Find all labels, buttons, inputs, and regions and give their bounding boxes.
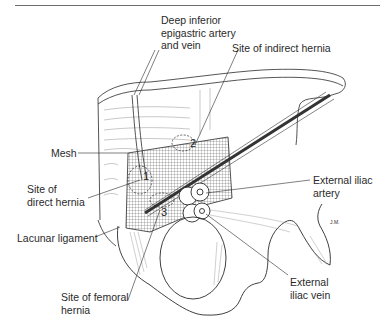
label-femoral-hernia: Site of femoral hernia [61,291,129,316]
label-external-iliac-artery: External iliac artery [313,174,373,199]
mesh-patch [126,137,232,232]
marker-3: 3 [161,206,167,219]
label-indirect-hernia: Site of indirect hernia [232,42,331,55]
label-external-iliac-vein: External iliac vein [290,276,330,301]
marker-2: 2 [190,137,196,150]
label-direct-hernia: Site of direct hernia [27,183,85,208]
artist-signature: J.M. [330,216,339,229]
label-lacunar-ligament: Lacunar ligament [17,232,98,245]
label-deep-inferior-epigastric: Deep inferior epigastric artery and vein [161,14,236,52]
label-mesh: Mesh [51,147,77,160]
marker-1: 1 [143,170,149,183]
